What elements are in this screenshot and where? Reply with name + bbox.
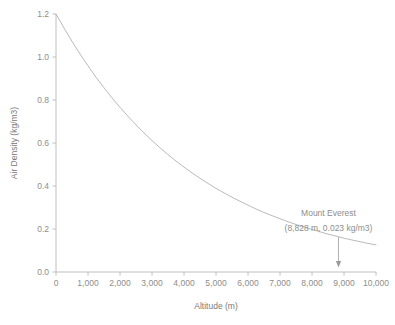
y-axis-tick-labels: 0.00.20.40.60.81.01.2 xyxy=(37,9,49,277)
x-tick-label: 9,000 xyxy=(333,278,355,288)
x-tick-label: 6,000 xyxy=(237,278,259,288)
x-axis-group: 01,0002,0003,0004,0005,0006,0007,0008,00… xyxy=(54,272,390,288)
y-tick-label: 0.4 xyxy=(37,181,49,191)
annotation-label-values: (8,828 m, 0.023 kg/m3) xyxy=(285,223,373,233)
annotation-group: Mount Everest(8,828 m, 0.023 kg/m3) xyxy=(285,208,373,268)
y-tick-label: 0.0 xyxy=(37,267,49,277)
x-axis-ticks xyxy=(56,272,376,276)
y-tick-label: 1.0 xyxy=(37,52,49,62)
annotation-arrowhead-icon xyxy=(336,261,341,268)
x-tick-label: 1,000 xyxy=(77,278,99,288)
y-tick-label: 0.8 xyxy=(37,95,49,105)
x-tick-label: 0 xyxy=(54,278,59,288)
y-axis-group: 0.00.20.40.60.81.01.2 xyxy=(37,9,56,277)
y-tick-label: 0.6 xyxy=(37,138,49,148)
x-tick-label: 3,000 xyxy=(141,278,163,288)
x-tick-label: 4,000 xyxy=(173,278,195,288)
x-tick-label: 10,000 xyxy=(363,278,389,288)
annotation-label-title: Mount Everest xyxy=(301,208,356,218)
chart-canvas: 0.00.20.40.60.81.01.2 01,0002,0003,0004,… xyxy=(0,0,395,325)
y-tick-label: 0.2 xyxy=(37,224,49,234)
x-axis-title: Altitude (m) xyxy=(194,301,238,311)
air-density-chart: 0.00.20.40.60.81.01.2 01,0002,0003,0004,… xyxy=(0,0,395,325)
x-axis-tick-labels: 01,0002,0003,0004,0005,0006,0007,0008,00… xyxy=(54,278,390,288)
y-axis-title: Air Density (kg/m3) xyxy=(9,107,19,179)
x-tick-label: 8,000 xyxy=(301,278,323,288)
x-tick-label: 7,000 xyxy=(269,278,291,288)
x-tick-label: 2,000 xyxy=(109,278,131,288)
x-tick-label: 5,000 xyxy=(205,278,227,288)
y-tick-label: 1.2 xyxy=(37,9,49,19)
y-axis-ticks xyxy=(53,14,57,272)
